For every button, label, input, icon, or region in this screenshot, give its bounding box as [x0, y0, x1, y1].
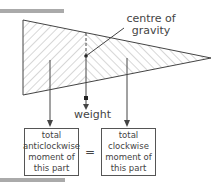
anticlockwise-arrow-tip: [47, 120, 53, 127]
box-line: total: [23, 130, 80, 141]
clockwise-moment-box: total clockwise moment of this part: [101, 128, 156, 176]
weight-label: weight: [74, 109, 111, 121]
box-line: moment of: [23, 152, 80, 163]
box-line: clockwise: [105, 141, 152, 152]
weight-arrow-head: [84, 96, 88, 100]
box-line: anticlockwise: [23, 141, 80, 152]
box-line: this part: [23, 163, 80, 174]
equals-sign: =: [85, 146, 95, 158]
box-line: this part: [105, 163, 152, 174]
anticlockwise-moment-box: total anticlockwise moment of this part: [24, 128, 79, 176]
box-line: total: [105, 130, 152, 141]
centre-of-gravity-label: centre of gravity: [122, 13, 180, 37]
clockwise-arrow-tip: [124, 120, 130, 127]
box-line: moment of: [105, 152, 152, 163]
